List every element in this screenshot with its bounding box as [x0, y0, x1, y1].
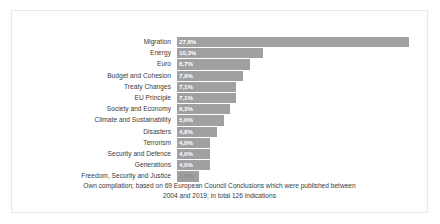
chart-caption: Own compilation; based on 69 European Co… — [12, 181, 427, 201]
bar-value-label: 7,1% — [179, 82, 193, 92]
bar-category-label: Euro — [12, 59, 177, 69]
chart-figure: Migration27,8%Energy10,3%Euro8,7%Budget … — [11, 10, 428, 213]
bar-category-label: Energy — [12, 48, 177, 58]
bar-value-label: 2,6% — [179, 171, 193, 181]
bar-track: 7,1% — [177, 93, 427, 103]
bar-track: 4,8% — [177, 127, 427, 137]
bar-row: Energy10,3% — [12, 48, 427, 58]
bar-category-label: Society and Economy — [12, 104, 177, 114]
bar-track: 4,0% — [177, 149, 427, 159]
bar-row: EU Principle7,1% — [12, 93, 427, 103]
bar-chart-plot-area: Migration27,8%Energy10,3%Euro8,7%Budget … — [12, 37, 427, 182]
bar-track: 5,6% — [177, 115, 427, 125]
bar-value-label: 8,7% — [179, 59, 193, 69]
bar-value-label: 7,1% — [179, 93, 193, 103]
bar-value-label: 6,3% — [179, 104, 193, 114]
bar-value-label: 10,3% — [179, 48, 196, 58]
bar-category-label: Budget and Cohesion — [12, 71, 177, 81]
bar-row: Climate and Sustainability5,6% — [12, 115, 427, 125]
bar-category-label: Migration — [12, 37, 177, 47]
bar-category-label: Disasters — [12, 127, 177, 137]
bar-category-label: Freedom, Security and Justice — [12, 171, 177, 181]
bar-row: Budget and Cohesion7,9% — [12, 71, 427, 81]
bar-track: 10,3% — [177, 48, 427, 58]
bar-track: 6,3% — [177, 104, 427, 114]
bar — [177, 37, 409, 47]
bar-track: 27,8% — [177, 37, 427, 47]
bar-track: 4,0% — [177, 138, 427, 148]
bar-row: Euro8,7% — [12, 59, 427, 69]
caption-line-2: 2004 and 2019; in total 126 indications — [12, 191, 427, 201]
caption-line-1: Own compilation; based on 69 European Co… — [12, 181, 427, 191]
bar-row: Migration27,8% — [12, 37, 427, 47]
bar-row: Terrorism4,0% — [12, 138, 427, 148]
bar-track: 7,1% — [177, 82, 427, 92]
bar-category-label: Generations — [12, 160, 177, 170]
bar-track: 8,7% — [177, 59, 427, 69]
bar-category-label: EU Principle — [12, 93, 177, 103]
bar-track: 4,0% — [177, 160, 427, 170]
bar-value-label: 7,9% — [179, 71, 193, 81]
bar-row: Disasters4,8% — [12, 127, 427, 137]
bar-category-label: Treaty Changes — [12, 82, 177, 92]
bar-row: Treaty Changes7,1% — [12, 82, 427, 92]
bar-track: 2,6% — [177, 171, 427, 181]
bar-category-label: Climate and Sustainability — [12, 115, 177, 125]
bar-row: Society and Economy6,3% — [12, 104, 427, 114]
bar-category-label: Terrorism — [12, 138, 177, 148]
bar-value-label: 27,8% — [179, 37, 196, 47]
bar-value-label: 4,0% — [179, 138, 193, 148]
bar-row: Security and Defence4,0% — [12, 149, 427, 159]
bar-value-label: 4,8% — [179, 127, 193, 137]
bar-value-label: 5,6% — [179, 115, 193, 125]
bar-row: Generations4,0% — [12, 160, 427, 170]
bar-track: 7,9% — [177, 71, 427, 81]
bar-value-label: 4,0% — [179, 149, 193, 159]
bar-row: Freedom, Security and Justice2,6% — [12, 171, 427, 181]
bar-value-label: 4,0% — [179, 160, 193, 170]
bar-category-label: Security and Defence — [12, 149, 177, 159]
